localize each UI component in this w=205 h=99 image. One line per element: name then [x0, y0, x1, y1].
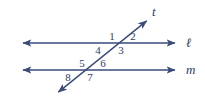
angle-label-5: 5	[76, 58, 88, 69]
line-label-m: m	[186, 63, 195, 76]
angle-label-3: 3	[115, 45, 127, 56]
angle-label-7: 7	[84, 72, 96, 83]
line-label-l: ℓ	[186, 36, 191, 49]
angle-label-1: 1	[106, 31, 118, 42]
line-label-t: t	[152, 5, 156, 18]
angle-label-6: 6	[97, 58, 109, 69]
geometry-figure: 12345678 ℓmt	[0, 0, 205, 99]
angle-label-4: 4	[92, 45, 104, 56]
angle-label-8: 8	[62, 72, 74, 83]
angle-label-2: 2	[127, 31, 139, 42]
